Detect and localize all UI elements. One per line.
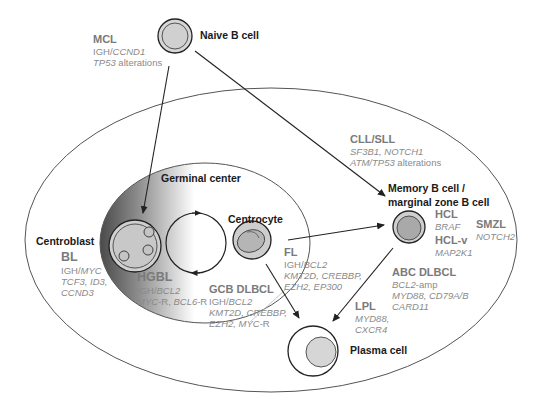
plasma-cell-icon [288,326,338,376]
gcb-gene-1a: IGH/ [209,296,229,307]
naive-b-cell-icon [158,19,192,53]
memory-label-line1: Memory B cell / [388,182,490,194]
disease-mcl: MCL IGH/CCND1 TP53 alterations [93,33,162,68]
disease-lpl: LPL MYD88, CXCR4 [355,300,389,335]
lpl-gene-2: CXCR4 [355,324,387,335]
fl-gene-1a: IGH/ [284,259,304,270]
centroblast-label: Centroblast [36,235,94,247]
germinal-center-label: Germinal center [161,172,241,184]
smzl-name: SMZL [476,218,515,231]
disease-hcl: HCL BRAF [435,208,460,232]
memory-label-line2: marginal zone B cell [388,196,490,208]
hcl-name: HCL [435,208,460,221]
hgbl-name: HGBL [137,270,207,285]
abc-gene-1b: -amp [416,279,438,290]
mcl-gene-1b: CCND1 [113,46,146,57]
plasma-cell-label: Plasma cell [350,344,407,356]
memory-b-cell-label: Memory B cell / marginal zone B cell [388,182,490,209]
hgbl-gene-2d: -R [197,296,207,307]
disease-abc-dlbcl: ABC DLBCL BCL2-amp MYD88, CD79A/B CARD11 [392,266,469,313]
gcb-gene-3a: EZH2, MYC [209,318,260,329]
mcl-gene-1a: IGH/ [93,46,113,57]
bl-gene-1a: IGH/ [61,265,81,276]
bl-gene-3: CCND3 [61,287,94,298]
bl-gene-2: TCF3, ID3, [61,276,107,287]
hgbl-gene-2c: BCL6 [173,296,197,307]
fl-name: FL [284,246,362,259]
disease-hcl-v: HCL-v MAP2K1 [435,234,473,258]
naive-b-cell-label: Naive B cell [200,29,259,41]
lpl-name: LPL [355,300,389,313]
mcl-name: MCL [93,33,162,46]
bl-name: BL [61,250,107,265]
hclv-name: HCL-v [435,234,473,247]
disease-smzl: SMZL NOTCH2 [476,218,515,242]
hcl-gene-1: BRAF [435,221,460,232]
hclv-gene-1: MAP2K1 [435,247,473,258]
gcb-name: GCB DLBCL [209,283,287,296]
abc-gene-3: CARD11 [392,301,429,312]
abc-gene-2: MYD88, CD79A/B [392,290,469,301]
hgbl-gene-1a: IGH/ [137,285,157,296]
smzl-gene-1: NOTCH2 [476,231,515,242]
hgbl-gene-2b: -R, [158,296,173,307]
fl-gene-1b: BCL2 [304,259,328,270]
disease-hgbl: HGBL IGH/BCL2 MYC-R, BCL6-R [137,270,207,307]
cll-gene-1: SF3B1, NOTCH1 [350,146,423,157]
cll-name: CLL/SLL [350,133,441,146]
gcb-gene-1b: BCL2 [229,296,253,307]
hgbl-gene-2a: MYC [137,296,158,307]
gcb-gene-2: KMT2D, CREBBP, [209,307,287,318]
memory-b-cell-icon [393,211,425,243]
abc-gene-1a: BCL2 [392,279,416,290]
disease-gcb-dlbcl: GCB DLBCL IGH/BCL2 KMT2D, CREBBP, EZH2, … [209,283,287,330]
cll-gene-2b: alterations [395,157,441,168]
gcb-gene-3b: -R [260,318,270,329]
mcl-gene-2b: alterations [116,57,162,68]
fl-gene-2: KMT2D, CREBBP, [284,270,362,281]
disease-cll-sll: CLL/SLL SF3B1, NOTCH1 ATM/TP53 alteratio… [350,133,441,168]
cll-gene-2a: ATM/TP53 [350,157,395,168]
centrocyte-cell-icon [233,221,271,259]
hgbl-gene-1b: BCL2 [157,285,181,296]
disease-fl: FL IGH/BCL2 KMT2D, CREBBP, EZH2, EP300 [284,246,362,293]
disease-bl: BL IGH/MYC TCF3, ID3, CCND3 [61,250,107,298]
centrocyte-label: Centrocyte [228,213,283,225]
fl-gene-3: EZH2, EP300 [284,281,342,292]
lpl-gene-1: MYD88, [355,313,389,324]
centroblast-cell-icon [109,220,161,272]
bl-gene-1b: MYC [81,265,102,276]
mcl-gene-2a: TP53 [93,57,116,68]
abc-name: ABC DLBCL [392,266,469,279]
